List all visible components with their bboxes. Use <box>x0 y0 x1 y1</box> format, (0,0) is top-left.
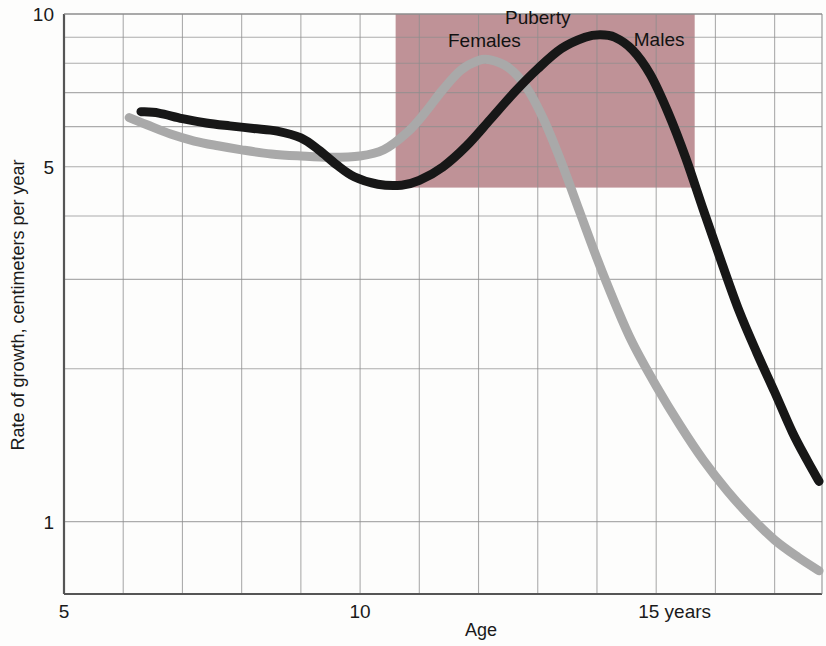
y-tick-label: 1 <box>43 512 54 533</box>
x-axis-title: Age <box>465 620 497 640</box>
growth-rate-chart-figure: 51015 years1051 PubertyFemalesMales Age … <box>0 0 826 646</box>
x-tick-label: 10 <box>350 601 371 622</box>
x-tick-label: 15 years <box>638 601 711 622</box>
y-tick-label: 10 <box>33 4 54 25</box>
annotation-females: Females <box>448 30 521 51</box>
y-tick-label: 5 <box>43 157 54 178</box>
y-axis-title: Rate of growth, centimeters per year <box>8 159 28 450</box>
annotation-males: Males <box>634 29 685 50</box>
chart-canvas: 51015 years1051 PubertyFemalesMales Age … <box>0 0 826 646</box>
annotation-puberty: Puberty <box>505 7 571 28</box>
x-tick-label: 5 <box>59 601 70 622</box>
